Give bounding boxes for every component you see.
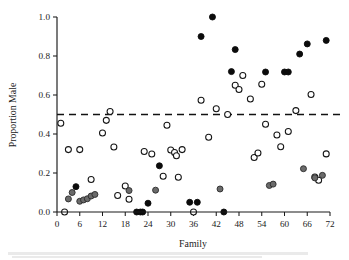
data-point	[88, 176, 94, 182]
data-point	[278, 144, 284, 150]
data-point	[285, 128, 291, 134]
data-point	[263, 121, 269, 127]
data-point	[65, 147, 71, 153]
data-point	[160, 173, 166, 179]
data-point	[236, 87, 242, 93]
data-point	[69, 190, 75, 196]
x-tick-label: 54	[257, 219, 267, 229]
x-tick-label: 36	[189, 219, 199, 229]
data-point	[149, 151, 155, 157]
x-tick-label: 72	[325, 219, 335, 229]
y-tick-label: 0.4	[39, 129, 51, 139]
scatter-plot-figure: 0612182430364248546066720.00.20.40.60.81…	[0, 0, 349, 260]
data-point	[308, 91, 314, 97]
data-point	[297, 51, 303, 57]
data-point	[100, 130, 106, 136]
data-point	[209, 14, 215, 20]
data-point	[198, 97, 204, 103]
data-point	[73, 184, 79, 190]
data-point	[175, 174, 181, 180]
x-tick-label: 6	[77, 219, 82, 229]
data-point	[259, 81, 265, 87]
x-tick-label: 0	[55, 219, 60, 229]
y-tick-label: 0.0	[39, 207, 51, 217]
x-tick-label: 42	[212, 219, 222, 229]
data-point	[92, 191, 98, 197]
data-point	[247, 96, 253, 102]
data-point	[65, 196, 71, 202]
data-point	[77, 147, 83, 153]
data-point	[156, 163, 162, 169]
data-point	[107, 109, 113, 115]
data-point	[228, 69, 234, 75]
x-tick-label: 48	[234, 219, 244, 229]
data-point	[194, 199, 200, 205]
data-point	[145, 200, 151, 206]
data-point	[225, 112, 231, 118]
data-point	[206, 134, 212, 140]
data-point	[187, 199, 193, 205]
data-point	[255, 150, 261, 156]
x-tick-label: 30	[166, 219, 176, 229]
data-point	[198, 34, 204, 40]
data-point	[319, 172, 325, 178]
data-point	[103, 117, 109, 123]
y-tick-label: 0.8	[39, 51, 51, 61]
data-point	[179, 147, 185, 153]
data-point	[126, 188, 132, 194]
data-point	[312, 175, 318, 181]
x-tick-label: 24	[143, 219, 153, 229]
data-point	[126, 196, 132, 202]
data-point	[232, 47, 238, 53]
data-point	[164, 122, 170, 128]
data-point	[300, 166, 306, 172]
data-point	[115, 192, 121, 198]
data-point	[270, 181, 276, 187]
data-point	[141, 149, 147, 155]
x-axis-title: Family	[179, 238, 207, 249]
y-axis-title: Proportion Male	[7, 82, 18, 147]
data-point	[173, 153, 179, 159]
y-tick-label: 0.2	[39, 168, 51, 178]
x-tick-label: 60	[280, 219, 290, 229]
data-point	[217, 186, 223, 192]
x-tick-label: 66	[303, 219, 313, 229]
data-point	[285, 69, 291, 75]
data-point	[293, 108, 299, 114]
page-edge-artifact	[12, 256, 262, 258]
data-point	[58, 120, 64, 126]
data-point	[213, 106, 219, 112]
y-tick-label: 1.0	[39, 12, 51, 22]
x-tick-label: 18	[121, 219, 131, 229]
data-point	[263, 69, 269, 75]
page-edge-artifact	[8, 252, 308, 255]
x-tick-label: 12	[98, 219, 108, 229]
data-point	[323, 37, 329, 43]
data-point	[111, 144, 117, 150]
data-point	[323, 151, 329, 157]
data-point	[240, 73, 246, 79]
data-point	[153, 187, 159, 193]
data-point	[304, 41, 310, 47]
y-tick-label: 0.6	[39, 90, 51, 100]
data-point	[274, 132, 280, 138]
